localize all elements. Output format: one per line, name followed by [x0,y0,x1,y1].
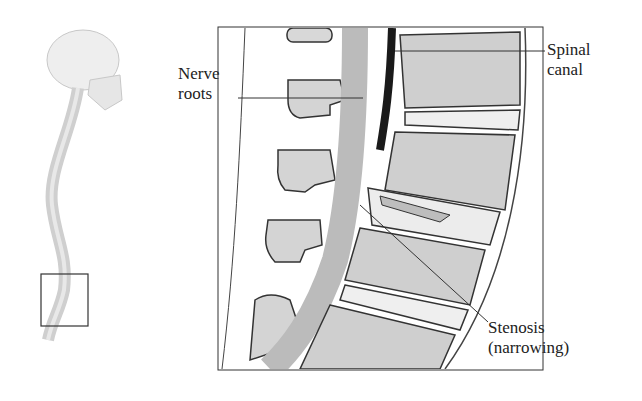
stenosis-label: Stenosis (narrowing) [488,318,569,358]
nerve-roots-label: Nerve roots [178,64,220,104]
skeleton-overview [41,30,122,340]
spinal-canal-label: Spinal canal [547,40,590,80]
